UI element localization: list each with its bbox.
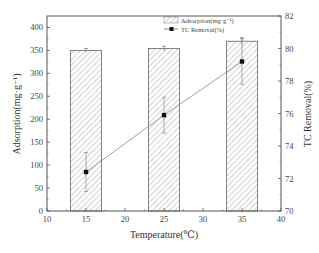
x-tick-label: 30 bbox=[199, 214, 208, 224]
legend-label-adsorption: Adsorption(mg·g⁻¹) bbox=[181, 17, 234, 25]
x-tick-label: 25 bbox=[160, 214, 169, 224]
y-left-tick-label: 400 bbox=[30, 22, 43, 32]
x-tick-label: 40 bbox=[277, 214, 286, 224]
y-left-tick-label: 200 bbox=[30, 114, 43, 124]
x-axis-title: Temperature(℃) bbox=[130, 229, 198, 241]
y-right-tick-label: 76 bbox=[285, 109, 294, 119]
y-left-tick-label: 50 bbox=[35, 183, 44, 193]
y-left-tick-label: 100 bbox=[30, 160, 43, 170]
y-left-tick-label: 300 bbox=[30, 68, 43, 78]
tc-removal-point-square-icon bbox=[240, 59, 244, 63]
y-right-tick-label: 74 bbox=[285, 141, 294, 151]
y-right-tick-label: 72 bbox=[285, 174, 294, 184]
y-right-tick-label: 80 bbox=[285, 44, 294, 54]
legend-marker-square-icon bbox=[170, 27, 174, 31]
tc-removal-point-square-icon bbox=[84, 170, 88, 174]
y-axis-right: 70727476788082 bbox=[278, 11, 294, 216]
y-right-tick-label: 78 bbox=[285, 76, 294, 86]
y-left-tick-label: 350 bbox=[30, 45, 43, 55]
chart: 10152025303540 050100150200250300350400 … bbox=[0, 0, 319, 253]
x-tick-label: 20 bbox=[121, 214, 130, 224]
y-left-tick-label: 0 bbox=[39, 206, 43, 216]
y-axis-right-title: TC Removal(%) bbox=[302, 81, 314, 147]
legend: Adsorption(mg·g⁻¹) TC Removal(%) bbox=[164, 17, 234, 34]
y-left-tick-label: 150 bbox=[30, 137, 43, 147]
x-tick-label: 15 bbox=[82, 214, 91, 224]
legend-label-tc: TC Removal(%) bbox=[181, 26, 224, 34]
y-right-tick-label: 82 bbox=[285, 11, 294, 21]
tc-removal-point-square-icon bbox=[162, 113, 166, 117]
x-tick-label: 35 bbox=[238, 214, 247, 224]
legend-swatch-adsorption bbox=[164, 17, 178, 23]
y-right-tick-label: 70 bbox=[285, 206, 294, 216]
y-left-tick-label: 250 bbox=[30, 91, 43, 101]
y-axis-left-title: Adsorption(mg·g⁻¹) bbox=[11, 73, 23, 154]
x-tick-label: 10 bbox=[43, 214, 52, 224]
